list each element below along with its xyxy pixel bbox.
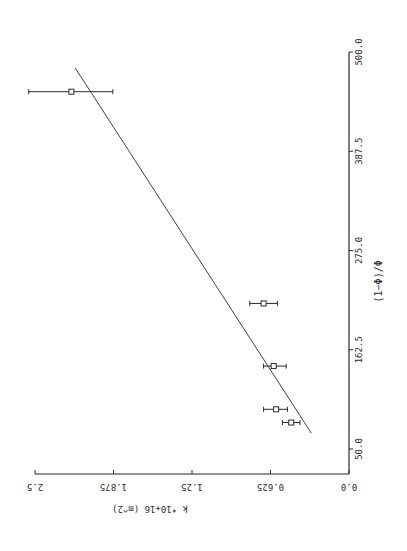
axis-labels: 0.00.6251.251.8752.550.0162.5275.0387.55… xyxy=(27,38,384,514)
fit-line xyxy=(75,68,311,433)
axes xyxy=(35,52,353,474)
data-points xyxy=(29,89,300,425)
phi-tick-label: 387.5 xyxy=(354,138,364,165)
rotated-scatter-chart: 0.00.6251.251.8752.550.0162.5275.0387.55… xyxy=(0,0,407,551)
fit-line-segment xyxy=(75,68,311,433)
data-point xyxy=(250,301,278,306)
square-marker-icon xyxy=(261,301,266,306)
k-tick-label: 2.5 xyxy=(27,482,43,492)
data-point xyxy=(29,89,113,94)
phi-axis-title: (1−Φ)/Φ xyxy=(373,260,384,302)
phi-tick-label: 500.0 xyxy=(354,38,364,65)
square-marker-icon xyxy=(289,420,294,425)
data-point xyxy=(264,407,288,412)
data-point xyxy=(282,420,300,425)
square-marker-icon xyxy=(271,364,276,369)
k-tick-label: 1.875 xyxy=(100,482,127,492)
k-axis-title: k *10+16 (m^2) xyxy=(112,504,188,514)
phi-tick-label: 50.0 xyxy=(354,438,364,460)
square-marker-icon xyxy=(69,89,74,94)
k-tick-label: 0.0 xyxy=(341,482,357,492)
phi-tick-label: 162.5 xyxy=(354,336,364,363)
k-tick-label: 0.625 xyxy=(257,482,284,492)
k-tick-label: 1.25 xyxy=(181,482,203,492)
square-marker-icon xyxy=(274,407,279,412)
phi-tick-label: 275.0 xyxy=(354,237,364,264)
